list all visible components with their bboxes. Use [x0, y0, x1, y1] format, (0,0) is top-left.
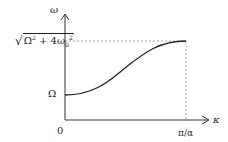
- radicand-plus-term: + 4ω: [36, 35, 65, 46]
- origin-label: 0: [57, 126, 63, 136]
- chart-plot-area: [0, 0, 228, 142]
- radicand-subscript: 0: [65, 41, 69, 48]
- x-tick-pi-over-alpha: π/α: [178, 129, 193, 138]
- y-tick-max-frequency: √Ω2 + 4ω02: [15, 33, 74, 48]
- radicand-omega: Ω: [24, 35, 32, 46]
- dispersion-curve: [65, 41, 186, 95]
- y-tick-omega: Ω: [48, 89, 56, 99]
- radicand-superscript: 2: [69, 34, 73, 41]
- x-axis-label: κ: [213, 115, 220, 125]
- y-axis-label: ω: [50, 5, 58, 15]
- sqrt-icon: √: [15, 35, 23, 47]
